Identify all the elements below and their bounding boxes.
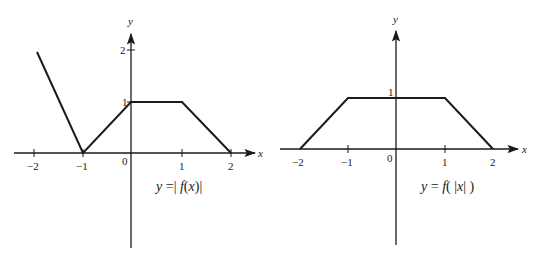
right-origin-label: 0 [387, 152, 393, 164]
left-caption: y =| f(x)| [154, 179, 202, 195]
left-xlabel-p1: 1 [179, 160, 185, 172]
right-ylabel-1: 1 [388, 86, 394, 98]
left-xlabel-p2: 2 [228, 160, 234, 172]
left-graph: −2 −1 0 1 2 2 1 y x y =| f(x)| [14, 15, 263, 248]
right-graph: −2 −1 0 1 2 1 y x y = f( |x| ) [280, 13, 527, 245]
figure: −2 −1 0 1 2 2 1 y x y =| f(x)| −2 −1 0 1… [0, 0, 540, 265]
left-xlabel-m2: −2 [27, 160, 39, 172]
left-curve [37, 52, 231, 153]
right-caption: y = f( |x| ) [419, 179, 475, 195]
left-xlabel-m1: −1 [76, 160, 88, 172]
right-xlabel-m2: −2 [292, 156, 304, 168]
right-y-axis-label: y [392, 13, 398, 25]
right-xlabel-p1: 1 [442, 156, 448, 168]
left-origin-label: 0 [122, 155, 128, 167]
right-x-axis-label: x [521, 143, 527, 155]
left-y-axis-label: y [127, 15, 133, 27]
left-x-axis-label: x [257, 147, 263, 159]
left-ylabel-2: 2 [120, 44, 126, 56]
left-ylabel-1: 1 [122, 96, 128, 108]
right-xlabel-p2: 2 [490, 156, 496, 168]
right-xlabel-m1: −1 [341, 156, 353, 168]
